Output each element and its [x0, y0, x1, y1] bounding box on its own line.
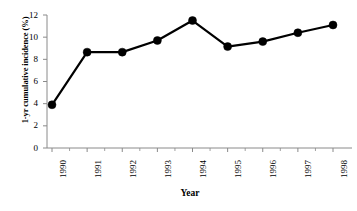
x-axis-tick-label: 1991 [93, 138, 104, 178]
data-series-group [48, 17, 337, 109]
x-axis-tick-label: 1993 [163, 138, 174, 178]
series-line [52, 21, 333, 105]
x-axis-tick-label: 1995 [233, 138, 244, 178]
axis-group [43, 15, 352, 152]
x-axis-tick-label: 1990 [58, 138, 69, 178]
y-axis-title: 1-yr cumulative incidence (%) [18, 0, 32, 150]
data-point-marker [118, 48, 126, 56]
data-point-marker [48, 101, 56, 109]
data-point-marker [259, 38, 267, 46]
data-point-marker [153, 36, 161, 44]
data-point-marker [294, 29, 302, 37]
line-chart-canvas [0, 0, 357, 211]
data-point-marker [329, 21, 337, 29]
x-axis-tick-label: 1992 [128, 138, 139, 178]
x-axis-tick-label: 1998 [339, 138, 350, 178]
x-axis-tick-label: 1997 [303, 138, 314, 178]
chart-figure: 024681012 199019911992199319941995199619… [0, 0, 357, 211]
data-point-marker [83, 48, 91, 56]
data-point-marker [224, 43, 232, 51]
x-axis-tick-label: 1996 [268, 138, 279, 178]
data-point-marker [189, 17, 197, 25]
x-axis-tick-label: 1994 [198, 138, 209, 178]
x-axis-title: Year [40, 188, 340, 198]
